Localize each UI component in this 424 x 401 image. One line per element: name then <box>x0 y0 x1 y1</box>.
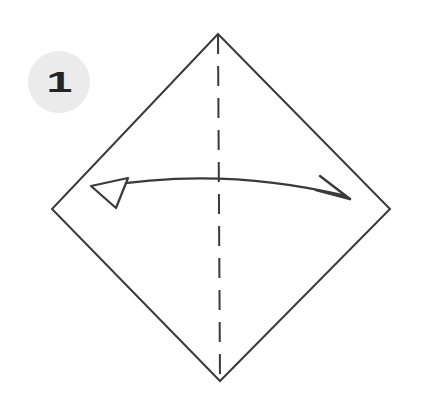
paper-diamond <box>52 34 390 381</box>
step-number-label: 1 <box>46 67 72 97</box>
diagram-canvas: 1 <box>0 0 424 401</box>
step-number-badge: 1 <box>28 51 90 113</box>
